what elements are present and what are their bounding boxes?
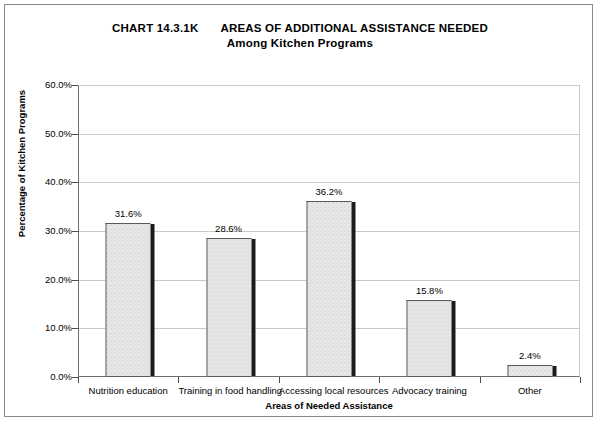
bar-slot: 31.6%: [78, 85, 178, 377]
bar-value-label: 2.4%: [519, 351, 541, 361]
bar[interactable]: [306, 201, 351, 377]
y-axis-labels: 0.0%10.0%20.0%30.0%40.0%50.0%60.0%: [0, 0, 72, 424]
bar-value-label: 15.8%: [416, 286, 443, 296]
x-axis-tick-label: Accessing local resources: [279, 385, 379, 396]
chart-title-block: CHART 14.3.1KAREAS OF ADDITIONAL ASSISTA…: [0, 22, 600, 49]
bar-value-label: 28.6%: [215, 224, 242, 234]
x-axis-title: Areas of Needed Assistance: [78, 400, 580, 411]
y-axis-title: Percentage of Kitchen Programs: [16, 69, 27, 259]
x-axis-tick: [480, 377, 481, 383]
chart-title-line: CHART 14.3.1KAREAS OF ADDITIONAL ASSISTA…: [0, 22, 600, 34]
y-axis-tick-label: 20.0%: [8, 275, 72, 285]
bar-value-label: 31.6%: [115, 209, 142, 219]
bar-shadow: [452, 301, 456, 376]
x-axis-tick: [379, 377, 380, 383]
x-axis-tick-label: Advocacy training: [379, 385, 479, 396]
x-axis-tick: [78, 377, 79, 383]
bar-slot: 15.8%: [379, 85, 479, 377]
bar-shadow: [151, 224, 155, 376]
bar-slot: 36.2%: [279, 85, 379, 377]
x-axis-tick: [279, 377, 280, 383]
chart-title-main: AREAS OF ADDITIONAL ASSISTANCE NEEDED: [220, 22, 487, 34]
bar-slot: 2.4%: [480, 85, 580, 377]
x-axis-tick-label: Nutrition education: [78, 385, 178, 396]
chart-number: CHART 14.3.1K: [112, 22, 198, 34]
bar[interactable]: [507, 365, 552, 377]
y-axis-tick-label: 10.0%: [8, 323, 72, 333]
x-axis-tick-label: Training in food handling: [178, 385, 278, 396]
bar-value-label: 36.2%: [316, 187, 343, 197]
bar[interactable]: [106, 223, 151, 377]
x-axis-tick: [580, 377, 581, 383]
chart-subtitle: Among Kitchen Programs: [0, 37, 600, 49]
bar-shadow: [351, 202, 355, 376]
bar-shadow: [251, 239, 255, 376]
y-axis-tick-label: 0.0%: [8, 372, 72, 382]
bar[interactable]: [206, 238, 251, 377]
x-axis-tick-label: Other: [480, 385, 580, 396]
chart-figure: CHART 14.3.1KAREAS OF ADDITIONAL ASSISTA…: [0, 0, 600, 424]
x-axis-tick: [178, 377, 179, 383]
bar-shadow: [552, 366, 556, 376]
bar[interactable]: [407, 300, 452, 377]
bar-slot: 28.6%: [178, 85, 278, 377]
